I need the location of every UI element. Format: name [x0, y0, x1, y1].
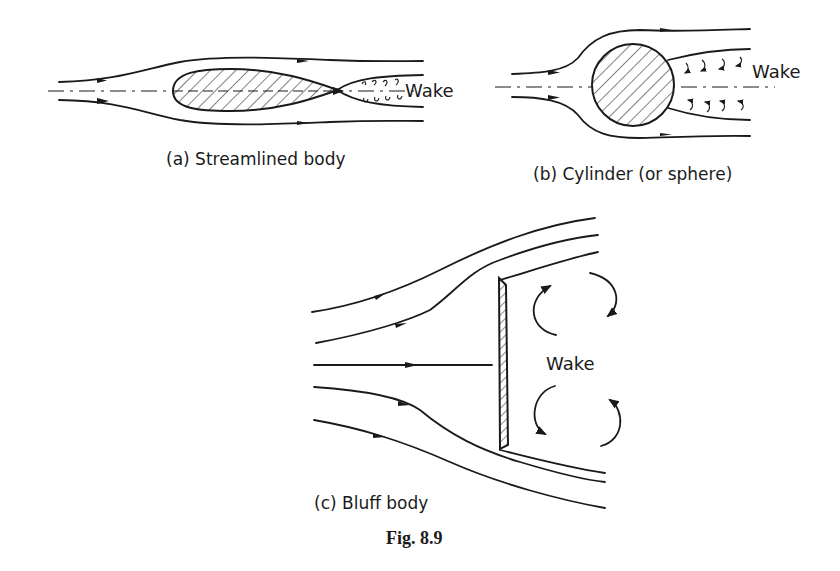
wake-label: Wake [405, 80, 454, 101]
streamline-2 [316, 235, 598, 343]
panel-b-cylinder: Wake (c) Bluff body (b) Cylinder (or sph… [495, 28, 801, 184]
panel-b-caption: (b) Cylinder (or sphere) [533, 164, 732, 184]
figure-caption: Fig. 8.9 [386, 528, 443, 548]
wake-vortices [685, 57, 743, 112]
flow-arrow-icon [297, 121, 309, 125]
streamline-4 [314, 387, 605, 482]
panel-c-bluff-body: Wake (c) Bluff body [312, 218, 620, 513]
streamlined-body-shape [173, 69, 338, 111]
wake-label: Wake [546, 353, 595, 374]
bluff-plate-shape [499, 278, 508, 449]
wake-label: Wake [752, 61, 801, 82]
panel-a-caption: (a) Streamlined body [166, 149, 346, 169]
panel-a-streamlined-body: Wake (a) Streamlined body [48, 58, 454, 169]
cylinder-shape [592, 44, 674, 126]
wake-boundary-upper [500, 252, 598, 280]
panel-c-caption: (c) Bluff body [314, 493, 428, 513]
wake-boundary-upper [668, 49, 750, 60]
figure-canvas: Wake (a) Streamlined body Wake (c) Bluff… [0, 0, 840, 571]
